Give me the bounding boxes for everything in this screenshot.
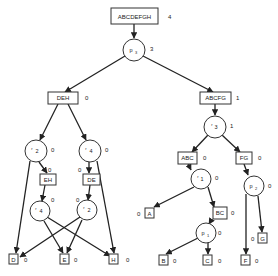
node-r3: r 3 1 — [204, 116, 234, 138]
svg-text:DE: DE — [87, 177, 95, 183]
svg-text:p: p — [129, 47, 132, 53]
svg-text:ABCFG: ABCFG — [205, 95, 226, 101]
node-ABC: ABC 0 — [178, 152, 207, 164]
leaf-G: G 0 — [251, 233, 267, 243]
svg-text:0: 0 — [218, 258, 222, 264]
svg-text:1: 1 — [230, 123, 234, 129]
svg-text:ABC: ABC — [181, 155, 194, 161]
svg-text:4: 4 — [39, 208, 42, 214]
svg-text:0: 0 — [137, 211, 141, 217]
svg-text:0: 0 — [105, 147, 109, 153]
leaf-C: C 0 — [203, 255, 222, 265]
svg-text:0: 0 — [78, 167, 82, 173]
svg-text:F: F — [244, 258, 248, 264]
node-r1: r 1 0 — [191, 169, 219, 189]
svg-text:0: 0 — [51, 197, 55, 203]
svg-text:D: D — [11, 257, 16, 263]
svg-text:0: 0 — [126, 257, 130, 263]
node-p3: p 3 3 — [123, 39, 154, 61]
svg-text:2: 2 — [87, 207, 90, 213]
svg-text:p: p — [249, 183, 252, 189]
svg-text:0: 0 — [203, 155, 207, 161]
leaf-B: B 0 — [159, 255, 177, 265]
node-EH: EH 0 — [40, 167, 56, 185]
svg-text:0: 0 — [268, 183, 272, 189]
svg-text:DEH: DEH — [57, 95, 70, 101]
svg-text:0: 0 — [215, 175, 219, 181]
svg-text:H: H — [111, 257, 115, 263]
svg-text:0: 0 — [218, 230, 222, 236]
leaf-H: H 0 — [109, 254, 130, 264]
svg-text:0: 0 — [231, 210, 235, 216]
svg-text:2: 2 — [35, 148, 38, 154]
svg-text:0: 0 — [251, 236, 255, 242]
svg-text:3: 3 — [150, 46, 154, 52]
node-BC: BC 0 — [213, 207, 235, 219]
svg-text:0: 0 — [76, 197, 80, 203]
svg-text:ABCDEFGH: ABCDEFGH — [118, 14, 151, 20]
svg-text:0: 0 — [74, 257, 78, 263]
node-r4-right: r 4 0 — [79, 140, 109, 162]
svg-text:B: B — [161, 258, 165, 264]
leaf-F: F 0 — [241, 255, 259, 265]
svg-text:0: 0 — [48, 167, 52, 173]
tree-diagram: ABCDEFGH 4 p 3 3 DEH 0 ABCFG 1 r 2 0 r 4… — [0, 0, 278, 276]
svg-text:EH: EH — [44, 177, 52, 183]
node-DEH: DEH 0 — [48, 92, 89, 104]
node-ABCFG: ABCFG 1 — [200, 92, 240, 104]
node-r2-left: r 2 0 — [25, 140, 55, 162]
svg-text:FG: FG — [240, 155, 249, 161]
svg-text:4: 4 — [168, 14, 172, 20]
leaf-A: A 0 — [137, 208, 154, 218]
svg-text:BC: BC — [216, 210, 225, 216]
svg-text:0: 0 — [85, 95, 89, 101]
svg-text:1: 1 — [200, 176, 203, 182]
leaf-E: E 0 — [60, 254, 78, 264]
node-ABCDEFGH: ABCDEFGH 4 — [111, 8, 172, 24]
svg-text:0: 0 — [24, 257, 28, 263]
leaf-D: D 0 — [9, 254, 28, 264]
node-p1: p 1 0 — [196, 223, 222, 243]
svg-text:4: 4 — [89, 148, 92, 154]
svg-text:3: 3 — [214, 124, 217, 130]
node-FG: FG 0 — [236, 152, 262, 164]
svg-text:0: 0 — [173, 258, 177, 264]
node-r2-lower: r 2 0 — [76, 197, 97, 220]
svg-text:C: C — [205, 258, 210, 264]
svg-text:1: 1 — [236, 95, 240, 101]
svg-text:G: G — [260, 236, 265, 242]
svg-text:0: 0 — [255, 258, 259, 264]
svg-text:A: A — [147, 211, 151, 217]
svg-text:E: E — [62, 257, 66, 263]
node-p2: p 2 0 — [244, 176, 272, 196]
svg-text:0: 0 — [51, 147, 55, 153]
svg-text:p: p — [201, 230, 204, 236]
svg-text:0: 0 — [258, 155, 262, 161]
